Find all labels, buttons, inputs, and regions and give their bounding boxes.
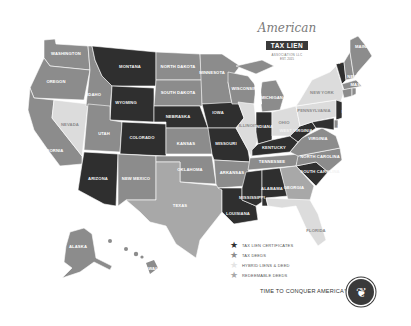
label-missouri: MISSOURI <box>215 141 237 146</box>
star-icon: ★ <box>230 261 242 270</box>
label-arizona: ARIZONA <box>88 176 108 181</box>
lake-michigan <box>254 76 262 108</box>
legend-item: ★ TAX LIEN CERTIFICATES <box>230 240 293 250</box>
label-utah: UTAH <box>98 131 110 136</box>
label-oregon: OREGON <box>46 79 65 84</box>
label-arkansas: ARKANSAS <box>220 170 245 175</box>
label-vermont: VERMONT <box>319 60 341 65</box>
label-oklahoma: OKLAHOMA <box>177 167 202 172</box>
label-texas: TEXAS <box>173 203 188 208</box>
state-alaska[interactable] <box>62 228 112 278</box>
state-michigan-up <box>236 60 274 74</box>
label-south-carolina: SOUTH CAROLINA <box>300 169 339 174</box>
label-new-york: NEW YORK <box>310 90 334 95</box>
label-alaska: ALASKA <box>69 244 87 249</box>
legend-item: ★ TAX DEEDS <box>230 250 293 260</box>
brand-logo: American TAX LIEN ASSOCIATION LLC EST. 2… <box>255 22 319 61</box>
state-florida[interactable] <box>266 198 326 246</box>
legend-item: ★ REDEEMABLE DEEDS <box>230 270 293 280</box>
label-wisconsin: WISCONSIN <box>231 86 256 91</box>
label-louisiana: LOUISIANA <box>226 211 250 216</box>
label-rhode-island: RHODE ISLAND <box>357 89 390 94</box>
tagline: TIME TO CONQUER AMERICA™ <box>260 288 350 294</box>
star-icon: ★ <box>230 241 242 250</box>
label-south-dakota: SOUTH DAKOTA <box>161 90 196 95</box>
label-connecticut: CONNECTICUT <box>352 95 384 100</box>
label-alabama: ALABAMA <box>261 186 283 191</box>
label-mississippi: MISSISSIPPI <box>239 195 265 200</box>
star-icon: ★ <box>230 271 242 280</box>
state-connecticut[interactable] <box>342 88 352 98</box>
label-new-jersey: NEW JERSEY <box>342 109 371 114</box>
label-north-carolina: NORTH CAROLINA <box>300 154 340 159</box>
us-map: WASHINGTON OREGON CALIFORNIA NEVADA IDAH… <box>0 0 411 326</box>
label-nevada: NEVADA <box>61 122 79 127</box>
state-mississippi[interactable] <box>242 170 262 206</box>
eagle-icon: ❦ <box>356 286 367 299</box>
legend-label: HYBRID LIENS & DEED <box>242 263 290 268</box>
seal-badge: ❦ <box>348 279 374 305</box>
state-maine[interactable] <box>350 36 372 78</box>
logo-ribbon: TAX LIEN <box>266 41 308 50</box>
label-idaho: IDAHO <box>87 92 102 97</box>
label-kansas: KANSAS <box>177 141 195 146</box>
label-north-dakota: NORTH DAKOTA <box>161 64 196 69</box>
label-california: CALIFORNIA <box>37 148 64 153</box>
label-ohio: OHIO <box>278 120 290 125</box>
legend-label: TAX DEEDS <box>242 253 266 258</box>
label-nebraska: NEBRASKA <box>166 114 191 119</box>
label-new-hampshire: NEW HAMPSHIRE <box>347 74 384 79</box>
label-virginia: VIRGINIA <box>308 136 327 141</box>
label-michigan: MICHIGAN <box>261 95 283 100</box>
label-washington: WASHINGTON <box>51 51 81 56</box>
label-tennessee: TENNESSEE <box>259 159 285 164</box>
label-new-mexico: NEW MEXICO <box>122 176 151 181</box>
star-icon: ★ <box>230 251 242 260</box>
label-wyoming: WYOMING <box>115 100 137 105</box>
label-massachusetts: MASSACHUSETTS <box>351 82 390 87</box>
legend: ★ TAX LIEN CERTIFICATES ★ TAX DEEDS ★ HY… <box>230 240 293 280</box>
label-colorado: COLORADO <box>129 135 155 140</box>
label-minnesota: MINNESOTA <box>199 70 225 75</box>
legend-item: ★ HYBRID LIENS & DEED <box>230 260 293 270</box>
state-iowa[interactable] <box>202 102 244 128</box>
label-indiana: INDIANA <box>255 124 273 129</box>
label-georgia: GEORGIA <box>284 185 304 190</box>
label-maryland: MARYLAND <box>338 124 363 129</box>
label-montana: MONTANA <box>119 64 141 69</box>
label-maine: MAINE <box>355 44 369 49</box>
legend-label: REDEEMABLE DEEDS <box>242 273 287 278</box>
label-hawaii: HAWAII <box>142 266 158 271</box>
label-florida: FLORIDA <box>306 228 325 233</box>
legend-label: TAX LIEN CERTIFICATES <box>242 243 293 248</box>
label-iowa: IOWA <box>212 110 224 115</box>
logo-est: EST. 2015 <box>255 57 319 61</box>
label-west-virginia: WEST VIRGINIA <box>279 128 312 133</box>
label-kentucky: KENTUCKY <box>262 145 286 150</box>
logo-script: American <box>255 22 319 34</box>
label-pennsylvania: PENNSYLVANIA <box>297 108 330 113</box>
